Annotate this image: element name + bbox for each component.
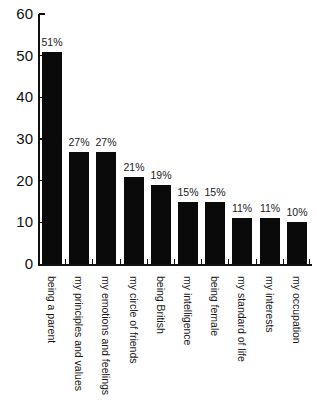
category-label: being British [154,276,167,334]
category-label: my principles and values [72,276,85,391]
y-axis-tick-label: 0 [0,255,33,273]
category-label: my standard of life [235,276,248,362]
x-axis-tick [174,259,176,264]
x-axis-tick [201,259,203,264]
bar-chart: 010203040506051%being a parent27%my prin… [0,0,317,401]
x-axis-line [38,264,312,266]
bar-value-label: 27% [84,136,128,148]
bar [124,177,144,265]
x-axis-tick [65,259,67,264]
y-axis-spine [38,14,40,266]
y-axis-tick-label: 50 [0,47,33,65]
category-label: my interests [263,276,276,333]
y-axis-tick [39,13,45,15]
category-label: my occupation [290,276,303,344]
bar-value-label: 15% [193,186,237,198]
y-axis-tick-label: 60 [0,5,33,23]
category-label: my emotions and feelings [99,276,112,395]
x-axis-tick [309,259,311,264]
bar-value-label: 19% [139,169,183,181]
bar [69,152,89,265]
bar-value-label: 51% [30,36,74,48]
category-label: being female [208,276,221,336]
x-axis-tick [120,259,122,264]
y-axis-tick-label: 40 [0,88,33,106]
y-axis-tick-label: 10 [0,213,33,231]
y-axis-tick-label: 30 [0,130,33,148]
bar-value-label: 10% [275,206,317,218]
bar [287,222,307,264]
y-axis-tick-label: 20 [0,172,33,190]
x-axis-tick [147,259,149,264]
category-label: my intelligence [181,276,194,345]
category-label: being a parent [45,276,58,343]
x-axis-tick [256,259,258,264]
x-axis-tick [92,259,94,264]
category-label: my circle of friends [127,276,140,364]
bar [232,218,252,264]
x-axis-tick [283,259,285,264]
x-axis-tick [228,259,230,264]
bar [178,202,198,265]
bar [260,218,280,264]
bar [42,52,62,265]
